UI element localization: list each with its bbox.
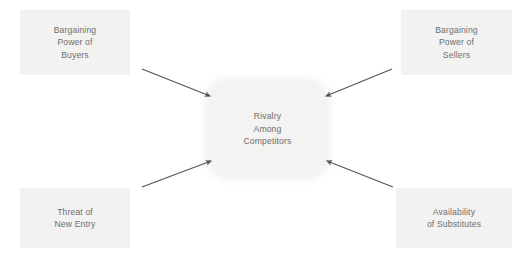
arrow-entry-to-rivalry: [142, 161, 211, 187]
diagram-canvas: Bargaining Power of Buyers Bargaining Po…: [0, 0, 532, 255]
connector-layer: [0, 0, 532, 255]
arrow-sellers-to-rivalry: [326, 69, 392, 96]
arrow-buyers-to-rivalry: [142, 69, 210, 96]
arrow-substitutes-to-rivalry: [327, 161, 393, 187]
